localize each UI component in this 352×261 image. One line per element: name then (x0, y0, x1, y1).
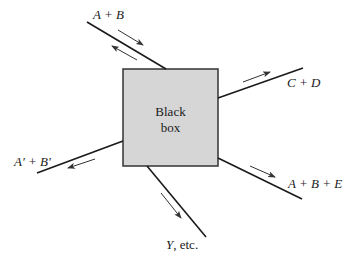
box-label-line1: Black (155, 104, 186, 119)
black-box-diagram: Black box A + B C + D A + B + E Y, etc. … (0, 0, 352, 261)
label-y-rest: , etc. (173, 237, 198, 252)
label-a-prime-b-prime: A′ + B′ (13, 154, 51, 169)
label-y-etc: Y, etc. (166, 237, 198, 252)
label-a-b-e: A + B + E (287, 176, 342, 191)
box-label-line2: box (161, 120, 181, 135)
label-c-d: C + D (287, 75, 321, 90)
stream-line-a-b (87, 22, 166, 69)
arrow-out-a-b (112, 46, 137, 60)
label-a-b: A + B (92, 7, 124, 22)
arrow-out-y (161, 193, 181, 218)
stream-line-y (147, 166, 206, 237)
